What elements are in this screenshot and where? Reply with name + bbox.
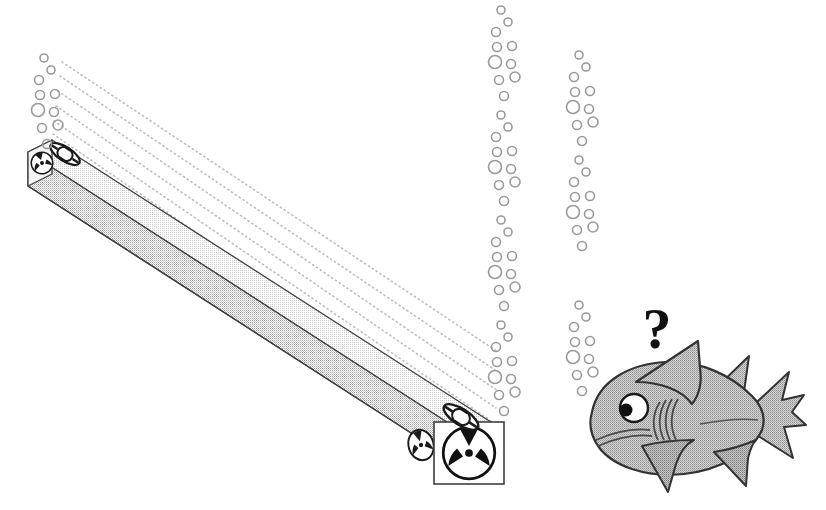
bubble [495, 286, 504, 295]
bubble [35, 76, 44, 85]
beam-tube [28, 139, 504, 484]
bubble [492, 133, 501, 142]
eye-pupil [620, 404, 633, 417]
bubble [504, 18, 512, 26]
bubble [508, 147, 517, 156]
bubble [493, 253, 502, 262]
bubble [578, 387, 587, 396]
bubble [507, 270, 516, 279]
bubble [571, 88, 580, 97]
scene-svg: ? [0, 0, 826, 510]
bubble [492, 28, 501, 37]
bubble-column-right-upper [567, 51, 599, 146]
bubble [53, 120, 63, 130]
bubble [493, 43, 502, 52]
bubble [582, 168, 590, 176]
bubble [575, 301, 583, 309]
illustration-canvas: ? [0, 0, 826, 510]
bubble [38, 124, 47, 133]
ray-4 [56, 106, 496, 408]
bubble [489, 56, 502, 69]
bubble [585, 105, 594, 114]
bubble [570, 73, 579, 82]
bubble-column-right-middle [567, 156, 599, 251]
bubble [489, 161, 502, 174]
bubble [575, 156, 583, 164]
bubble [497, 216, 505, 224]
emission-rays [53, 62, 498, 436]
bubble [47, 66, 55, 74]
bubble [500, 302, 509, 311]
bubble [510, 177, 520, 187]
bubble-column-center [489, 6, 521, 416]
radiation-panel-right [434, 422, 504, 484]
bubble [510, 282, 520, 292]
bubble [585, 210, 594, 219]
bubble [578, 242, 587, 251]
bubble [50, 108, 59, 117]
bubble [588, 222, 598, 232]
bubble [32, 104, 45, 117]
bubble [582, 63, 590, 71]
bubble [586, 337, 595, 346]
bubble [489, 371, 502, 384]
bubble [573, 371, 582, 380]
question-mark: ? [643, 296, 672, 361]
bubble [500, 92, 509, 101]
bubble [575, 51, 583, 59]
bubble [578, 137, 587, 146]
bubble [497, 111, 505, 119]
bubble [493, 148, 502, 157]
bubble [567, 351, 580, 364]
bubble [489, 266, 502, 279]
shark: ? [590, 296, 806, 492]
bubble [573, 121, 582, 130]
bubble [573, 226, 582, 235]
bubble [508, 252, 517, 261]
bubble [500, 197, 509, 206]
bubble [492, 238, 501, 247]
bubble [36, 91, 45, 100]
bubble [585, 355, 594, 364]
beam-top-face [28, 140, 494, 437]
bubble [507, 165, 516, 174]
bubble [588, 117, 598, 127]
bubble [495, 181, 504, 190]
bubble [586, 192, 595, 201]
bubble [507, 60, 516, 69]
bubble [495, 391, 504, 400]
shark-eye [620, 394, 649, 422]
bubble [567, 206, 580, 219]
bubble [493, 358, 502, 367]
bubble [570, 178, 579, 187]
bubble [508, 42, 517, 51]
ray-5 [54, 121, 494, 423]
bubble [504, 228, 512, 236]
bubble [586, 87, 595, 96]
bubble [497, 6, 505, 14]
bubble [497, 321, 505, 329]
bubble [504, 333, 512, 341]
bubble [510, 387, 520, 397]
bubble-column-left-top [32, 54, 64, 149]
beam-bottom-edge [28, 186, 470, 471]
bubble [51, 90, 60, 99]
bubble [571, 193, 580, 202]
bubble-column-right-lower [567, 301, 599, 396]
bubble [510, 72, 520, 82]
bubble [570, 323, 579, 332]
bubble [588, 367, 598, 377]
bubble [508, 357, 517, 366]
bubble [495, 76, 504, 85]
bubble [40, 54, 48, 62]
bubble [582, 313, 590, 321]
radiation-symbol-large [443, 427, 495, 479]
bubble [567, 101, 580, 114]
bubble [571, 338, 580, 347]
bubble [504, 123, 512, 131]
beam-front-face [28, 152, 470, 471]
bubble [500, 407, 509, 416]
bubble [507, 375, 516, 384]
question-mark-glyph: ? [643, 296, 672, 361]
